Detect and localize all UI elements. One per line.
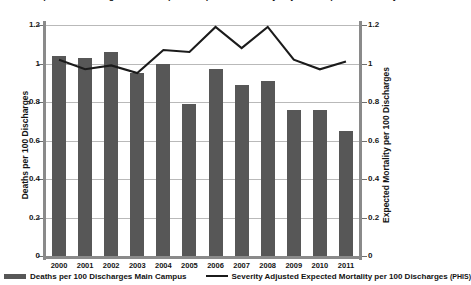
bar-swatch-icon <box>4 274 26 279</box>
chart-title: Deaths per 100 Discharges Main Campus Co… <box>0 0 409 3</box>
line-swatch-icon <box>206 275 228 277</box>
legend-label-bar: Deaths per 100 Discharges Main Campus <box>30 272 187 281</box>
y2-tick-label: 1 <box>368 59 408 68</box>
legend-item-line: Severity Adjusted Expected Mortality per… <box>206 272 471 281</box>
y2-tick-label: 1.2 <box>368 20 408 29</box>
y-tick-label: 0.2 <box>0 213 40 222</box>
y2-tick-mark <box>362 102 367 103</box>
y2-tick-label: 0.4 <box>368 174 408 183</box>
y-tick-label: 1 <box>0 59 40 68</box>
y-tick-label: 0.6 <box>0 136 40 145</box>
plot-area: 00.20.40.60.811.2 00.20.40.60.811.2 2000… <box>46 25 359 256</box>
line-series <box>46 25 359 256</box>
y-tick-label: 0.4 <box>0 174 40 183</box>
y2-tick-label: 0.6 <box>368 136 408 145</box>
y2-tick-mark <box>362 25 367 26</box>
y2-tick-mark <box>362 218 367 219</box>
y2-tick-label: 0.2 <box>368 213 408 222</box>
y-tick-label: 0.8 <box>0 97 40 106</box>
y2-tick-label: 0 <box>368 251 408 260</box>
y-axis-title: Deaths per 100 Discharges <box>20 65 30 225</box>
y2-tick-mark <box>362 141 367 142</box>
chart-legend: Deaths per 100 Discharges Main Campus Se… <box>4 269 407 283</box>
y2-tick-mark <box>362 256 367 257</box>
y2-tick-mark <box>362 179 367 180</box>
x-axis-spine <box>43 256 362 259</box>
y-tick-label: 1.2 <box>0 20 40 29</box>
y2-tick-label: 0.8 <box>368 97 408 106</box>
y2-tick-mark <box>362 64 367 65</box>
y2-axis-title: Expected Mortality per 100 Discharges <box>381 65 391 225</box>
legend-item-bar: Deaths per 100 Discharges Main Campus <box>4 272 187 281</box>
y-tick-label: 0 <box>0 251 40 260</box>
legend-label-line: Severity Adjusted Expected Mortality per… <box>232 272 471 281</box>
